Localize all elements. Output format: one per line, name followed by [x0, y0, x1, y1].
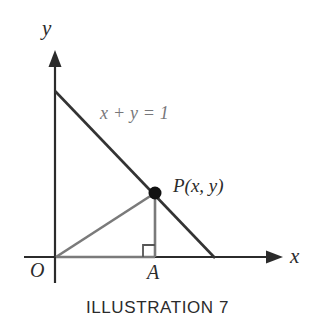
line-equation-label: x + y = 1 [100, 104, 169, 122]
y-axis-arrowhead [49, 50, 62, 67]
right-angle-marker [143, 245, 155, 257]
triangle-hypotenuse-segment-OP [56, 193, 155, 257]
y-axis-label: y [42, 18, 51, 39]
illustration-figure: y x O A P(x, y) x + y = 1 ILLUSTRATION 7 [0, 0, 315, 326]
x-axis-label: x [290, 246, 299, 267]
x-axis-arrowhead [266, 251, 283, 264]
point-p-dot [149, 187, 162, 200]
point-p-label: P(x, y) [173, 176, 224, 195]
point-a-label: A [147, 262, 159, 282]
origin-label: O [30, 260, 44, 280]
figure-caption: ILLUSTRATION 7 [0, 298, 315, 318]
